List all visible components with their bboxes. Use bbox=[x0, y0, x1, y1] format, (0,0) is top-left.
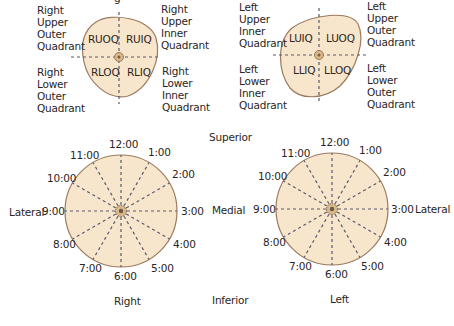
left-clock-2: 2:00 bbox=[383, 166, 406, 178]
right-clock-4: 4:00 bbox=[173, 238, 196, 250]
code-luiq: LUIQ bbox=[289, 32, 313, 44]
left-clock-10: 10:00 bbox=[258, 170, 287, 182]
code-luoq: LUOQ bbox=[326, 32, 355, 44]
code-lloq: LLOQ bbox=[324, 64, 351, 76]
right-clock-5: 5:00 bbox=[151, 262, 174, 274]
label-left-upper-inner-quadrant: Left Upper Inner Quadrant bbox=[239, 1, 287, 49]
right-clock-2: 2:00 bbox=[172, 168, 195, 180]
right-clock-9: 9:00 bbox=[42, 205, 65, 217]
label-right-upper-outer-quadrant: Right Upper Outer Quadrant bbox=[37, 4, 85, 52]
right-breast-clock-diagram bbox=[65, 155, 177, 267]
left-clock-1: 1:00 bbox=[359, 144, 382, 156]
left-clock-11: 11:00 bbox=[281, 147, 310, 159]
code-ruiq: RUIQ bbox=[126, 33, 152, 45]
right-clock-1: 1:00 bbox=[148, 146, 171, 158]
left-clock-3: 3:00 bbox=[391, 203, 414, 215]
label-left-lower-outer-quadrant: Left Lower Outer Quadrant bbox=[367, 62, 415, 110]
cropped-heading-fragment: g bbox=[114, 0, 121, 4]
label-superior: Superior bbox=[209, 131, 252, 143]
right-clock-10: 10:00 bbox=[47, 172, 76, 184]
code-ruoq: RUOQ bbox=[88, 33, 119, 45]
code-rloq: RLOQ bbox=[91, 66, 120, 78]
code-lliq: LLIQ bbox=[293, 64, 315, 76]
left-clock-9: 9:00 bbox=[253, 203, 276, 215]
left-clock-4: 4:00 bbox=[384, 236, 407, 248]
left-clock-7: 7:00 bbox=[289, 260, 312, 272]
label-right-lower-inner-quadrant: Right Lower Inner Quadrant bbox=[162, 65, 210, 113]
label-right-upper-inner-quadrant: Right Upper Inner Quadrant bbox=[161, 3, 209, 51]
left-clock-6: 6:00 bbox=[325, 268, 348, 280]
code-rliq: RLIQ bbox=[127, 66, 151, 78]
left-clock-8: 8:00 bbox=[263, 236, 286, 248]
left-clock-12: 12:00 bbox=[320, 136, 349, 148]
left-clock-5: 5:00 bbox=[361, 260, 384, 272]
label-left-side: Left bbox=[330, 293, 349, 305]
left-breast-clock-diagram bbox=[276, 153, 388, 265]
right-clock-6: 6:00 bbox=[114, 270, 137, 282]
label-right-lower-outer-quadrant: Right Lower Outer Quadrant bbox=[37, 66, 85, 114]
label-left-upper-outer-quadrant: Left Upper Outer Quadrant bbox=[367, 0, 415, 48]
label-right-side: Right bbox=[114, 295, 141, 307]
right-clock-8: 8:00 bbox=[53, 238, 76, 250]
label-medial: Medial bbox=[212, 204, 245, 216]
label-left-lower-inner-quadrant: Left Lower Inner Quadrant bbox=[239, 63, 287, 111]
right-clock-3: 3:00 bbox=[181, 205, 204, 217]
right-clock-11: 11:00 bbox=[70, 149, 99, 161]
label-inferior: Inferior bbox=[212, 294, 248, 306]
label-lateral-left: Lateral bbox=[415, 203, 450, 215]
label-lateral-right: Lateral bbox=[9, 206, 44, 218]
right-clock-12: 12:00 bbox=[109, 138, 138, 150]
right-clock-7: 7:00 bbox=[79, 262, 102, 274]
